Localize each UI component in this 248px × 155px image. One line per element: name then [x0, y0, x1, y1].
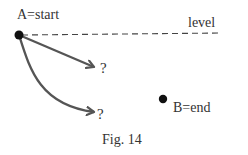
point-a-dot — [15, 31, 24, 40]
point-b-label: B=end — [173, 101, 210, 115]
curved-path-arrow — [19, 35, 94, 112]
straight-path-arrow — [19, 35, 94, 67]
straight-path-question-label: ? — [100, 61, 107, 76]
point-b-dot — [159, 95, 167, 103]
level-label: level — [188, 16, 215, 30]
curved-path-question-label: ? — [97, 107, 104, 122]
level-dashed-line — [22, 33, 222, 35]
figure: A=start level ? ? B=end Fig. 14 — [0, 0, 248, 155]
point-a-label: A=start — [17, 8, 59, 22]
figure-caption: Fig. 14 — [102, 133, 142, 147]
